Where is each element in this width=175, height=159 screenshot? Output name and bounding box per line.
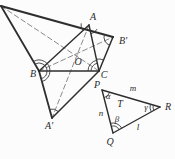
point-label-R: R (164, 101, 171, 112)
point-label-Q: Q (106, 136, 114, 147)
angle-arc-B (42, 71, 50, 82)
angle-arc-R (150, 104, 151, 112)
point-label-C: C (101, 69, 108, 80)
label-T: T (117, 98, 124, 109)
label-beta: β (114, 114, 120, 124)
label-n: n (99, 108, 104, 118)
point-label-P: P (93, 79, 100, 90)
angle-arc-C (88, 60, 97, 71)
segment-Ap-C (52, 71, 99, 118)
segment-B-Ap (39, 71, 52, 118)
point-label-Ap: A' (44, 120, 54, 131)
label-gamma: γ (144, 102, 148, 112)
angle-arc-C (97, 59, 104, 60)
point-label-A: A (89, 11, 97, 22)
point-label-O: O (74, 56, 81, 67)
point-label-B: B (30, 68, 36, 79)
label-alpha: α (106, 91, 111, 101)
segment-Cp-Bp (1, 6, 113, 37)
geometry-figure: AB'BCA'OPQRαβγTmnl (0, 0, 175, 159)
angle-arc-A (81, 23, 83, 30)
label-l: l (137, 122, 140, 132)
diagram-svg: AB'BCA'OPQRαβγTmnl (0, 0, 175, 159)
angle-arc-B (41, 71, 47, 79)
label-m: m (130, 83, 137, 93)
point-label-Bp: B' (119, 35, 128, 46)
